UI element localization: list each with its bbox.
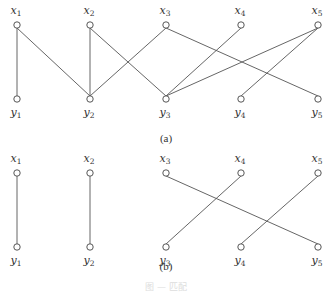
vertex-x1 bbox=[14, 22, 20, 28]
subfigure-b: x1x2x3x4x5y1y2y3y4y5 bbox=[10, 152, 323, 268]
vertex-x2 bbox=[87, 170, 93, 176]
vertex-label-x1: x1 bbox=[11, 4, 22, 18]
figure-canvas: x1x2x3x4x5y1y2y3y4y5 (a) x1x2x3x4x5y1y2y… bbox=[0, 0, 333, 295]
vertex-label-subscript: 1 bbox=[17, 157, 22, 166]
vertex-x3 bbox=[163, 22, 169, 28]
vertex-label-subscript: 3 bbox=[166, 9, 171, 18]
vertex-label-x3: x3 bbox=[160, 152, 171, 166]
vertex-label-subscript: 5 bbox=[318, 111, 323, 120]
vertex-label-x1: x1 bbox=[11, 152, 22, 166]
vertex-label-y2: y2 bbox=[83, 106, 95, 120]
vertex-label-y5: y5 bbox=[311, 254, 323, 268]
vertex-label-subscript: 5 bbox=[318, 157, 323, 166]
vertex-y5 bbox=[315, 244, 321, 250]
vertex-label-y4: y4 bbox=[234, 106, 246, 120]
vertex-label-subscript: 3 bbox=[166, 111, 171, 120]
subfigure-a: x1x2x3x4x5y1y2y3y4y5 bbox=[10, 4, 323, 120]
vertex-label-subscript: 2 bbox=[90, 111, 95, 120]
edge-x4-y3 bbox=[166, 28, 241, 96]
vertex-label-subscript: 1 bbox=[17, 111, 22, 120]
vertex-y4 bbox=[238, 244, 244, 250]
vertex-y5 bbox=[315, 96, 321, 102]
vertex-label-x2: x2 bbox=[84, 152, 95, 166]
vertex-y1 bbox=[14, 96, 20, 102]
vertex-label-y1: y1 bbox=[10, 106, 22, 120]
vertex-y4 bbox=[238, 96, 244, 102]
vertex-label-subscript: 2 bbox=[90, 9, 95, 18]
vertex-label-y2: y2 bbox=[83, 254, 95, 268]
vertex-label-x4: x4 bbox=[235, 152, 246, 166]
vertex-x4 bbox=[238, 170, 244, 176]
vertex-label-subscript: 2 bbox=[90, 259, 95, 268]
vertex-label-subscript: 1 bbox=[17, 9, 22, 18]
vertex-label-x4: x4 bbox=[235, 4, 246, 18]
vertex-y2 bbox=[87, 96, 93, 102]
vertex-label-y3: y3 bbox=[159, 106, 171, 120]
vertex-x4 bbox=[238, 22, 244, 28]
vertex-label-subscript: 5 bbox=[318, 9, 323, 18]
vertex-label-subscript: 3 bbox=[166, 157, 171, 166]
vertex-label-subscript: 4 bbox=[241, 157, 246, 166]
vertex-x5 bbox=[315, 22, 321, 28]
edge-x3-y5 bbox=[166, 176, 318, 244]
edge-x1-y2 bbox=[17, 28, 90, 96]
subfigure-b-label: (b) bbox=[160, 260, 173, 273]
figure-caption: 图 — 匹配 bbox=[145, 282, 187, 292]
vertex-x3 bbox=[163, 170, 169, 176]
vertex-label-y5: y5 bbox=[311, 106, 323, 120]
edge-x5-y4 bbox=[241, 176, 318, 244]
vertex-label-subscript: 1 bbox=[17, 259, 22, 268]
vertex-x2 bbox=[87, 22, 93, 28]
vertex-label-subscript: 5 bbox=[318, 259, 323, 268]
vertex-label-subscript: 4 bbox=[241, 259, 246, 268]
edge-x5-y4 bbox=[241, 28, 318, 96]
edge-x4-y3 bbox=[166, 176, 241, 244]
vertex-label-x5: x5 bbox=[312, 4, 323, 18]
vertex-label-y4: y4 bbox=[234, 254, 246, 268]
vertex-y3 bbox=[163, 244, 169, 250]
vertex-label-x3: x3 bbox=[160, 4, 171, 18]
vertex-label-subscript: 2 bbox=[90, 157, 95, 166]
vertex-label-subscript: 4 bbox=[241, 9, 246, 18]
vertex-label-x2: x2 bbox=[84, 4, 95, 18]
vertex-x5 bbox=[315, 170, 321, 176]
vertex-y3 bbox=[163, 96, 169, 102]
vertex-label-x5: x5 bbox=[312, 152, 323, 166]
vertex-y2 bbox=[87, 244, 93, 250]
vertex-y1 bbox=[14, 244, 20, 250]
vertex-label-y1: y1 bbox=[10, 254, 22, 268]
bipartite-matching-figure: x1x2x3x4x5y1y2y3y4y5 (a) x1x2x3x4x5y1y2y… bbox=[0, 0, 333, 295]
vertex-x1 bbox=[14, 170, 20, 176]
vertex-label-subscript: 4 bbox=[241, 111, 246, 120]
subfigure-a-label: (a) bbox=[160, 132, 173, 145]
